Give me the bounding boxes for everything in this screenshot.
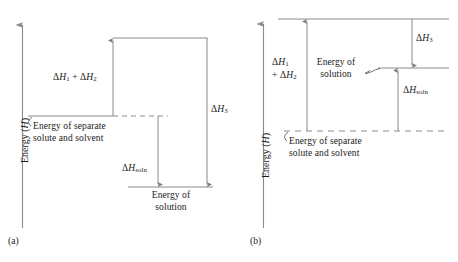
panel-a-dh3-label: ΔH3 bbox=[211, 104, 228, 116]
panel-b-dhsoln-label: ΔHsoln bbox=[403, 85, 428, 97]
panel-a-solution-line2: solution bbox=[155, 202, 186, 212]
panel-b-solution-leader bbox=[365, 69, 380, 74]
panel-b-separate-energy-label: Energy of separate solute and solvent bbox=[289, 136, 362, 159]
panel-b-separate-line2: solute and solvent bbox=[289, 148, 359, 158]
panel-a-dh12-label: ΔH1 + ΔH2 bbox=[53, 72, 97, 84]
panel-a-separate-line2: solute and solvent bbox=[33, 133, 103, 143]
panel-b-separate-line1: Energy of separate bbox=[289, 136, 362, 146]
panel-b-tag: (b) bbox=[250, 236, 261, 246]
panel-b-solution-line1: Energy of bbox=[317, 57, 355, 67]
panel-b-solution-energy-label: Energy of solution bbox=[308, 57, 364, 80]
panel-b-graphics bbox=[264, 19, 450, 228]
panel-b-axis-label: Energy (H) bbox=[260, 133, 271, 178]
panel-a-solution-energy-label: Energy of solution bbox=[143, 190, 199, 213]
panel-b-solution-line2: solution bbox=[320, 69, 351, 79]
panel-a-separate-line1: Energy of separate bbox=[33, 121, 106, 131]
panel-b-dh12-label: ΔH1 + ΔH2 bbox=[272, 57, 297, 83]
panel-b-separate-leader bbox=[285, 133, 288, 142]
panel-a-axis-label: Energy (H) bbox=[19, 118, 30, 163]
panel-a-tag: (a) bbox=[8, 236, 19, 246]
energy-diagram-figure: Energy (H) ΔH1 + ΔH2 ΔH3 ΔHsoln Energy o… bbox=[0, 0, 458, 262]
panel-b-dh3-label: ΔH3 bbox=[416, 33, 433, 45]
panel-a-separate-energy-label: Energy of separate solute and solvent bbox=[33, 121, 106, 144]
panel-a-solution-line1: Energy of bbox=[152, 190, 190, 200]
panel-a-dhsoln-label: ΔHsoln bbox=[122, 163, 147, 175]
